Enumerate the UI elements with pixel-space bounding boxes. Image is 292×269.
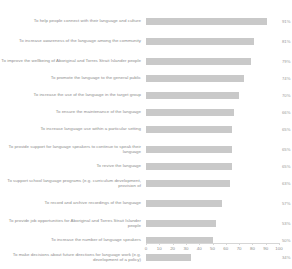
x-axis-tick-label: 80 <box>250 246 255 251</box>
bar-track <box>146 193 279 213</box>
bar-area: 65% <box>146 119 292 139</box>
bar-category-label: To improve the wellbeing of Aboriginal a… <box>0 58 146 63</box>
x-axis-tick-label: 10 <box>157 246 162 251</box>
chart-bar-row: To provide job opportunities for Aborigi… <box>0 213 292 233</box>
chart-bar-row: To help people connect with their langua… <box>0 11 292 31</box>
bar-area: 81% <box>146 31 292 51</box>
x-axis-tick <box>279 243 280 245</box>
x-axis-tick <box>186 243 187 245</box>
bar-category-label: To promote the language to the general p… <box>0 75 146 80</box>
x-axis-tick-label: 60 <box>223 246 228 251</box>
bar-category-label: To increase the use of the language in t… <box>0 92 146 97</box>
chart-bar-row: To record and archive recordings of the … <box>0 193 292 213</box>
chart-bar-row: To increase the use of the language in t… <box>0 85 292 105</box>
bar-category-label: To record and archive recordings of the … <box>0 200 146 205</box>
bar-track <box>146 119 279 139</box>
x-axis-tick <box>159 243 160 245</box>
bar-area: 70% <box>146 85 292 105</box>
chart-bar-row: To ensure the maintenance of the languag… <box>0 105 292 119</box>
bar-value-label: 65% <box>282 147 290 152</box>
bar-category-label: To support school language programs (e.g… <box>0 178 146 189</box>
bar-category-label: To provide support for language speakers… <box>0 144 146 155</box>
bar-area: 74% <box>146 71 292 85</box>
x-axis-tick <box>239 243 240 245</box>
bar-track <box>146 51 279 71</box>
bar <box>146 18 267 25</box>
bar <box>146 220 216 227</box>
x-axis-tick-label: 0 <box>145 246 147 251</box>
x-axis: 0102030405060708090100 <box>146 243 292 269</box>
bar-area: 63% <box>146 173 292 193</box>
bar-track <box>146 139 279 159</box>
bar <box>146 75 244 82</box>
bar-category-label: To provide job opportunities for Aborigi… <box>0 218 146 229</box>
bar-value-label: 66% <box>282 110 290 115</box>
bar-value-label: 70% <box>282 93 290 98</box>
bar <box>146 38 254 45</box>
bar <box>146 146 232 153</box>
chart-bar-row: To support school language programs (e.g… <box>0 173 292 193</box>
x-axis-tick-label: 100 <box>275 246 282 251</box>
x-axis-tick <box>213 243 214 245</box>
bar-category-label: To make decisions about future direction… <box>0 252 146 263</box>
bar-track <box>146 11 279 31</box>
x-axis-tick-label: 90 <box>263 246 268 251</box>
bar-track <box>146 213 279 233</box>
bar-track <box>146 159 279 173</box>
bar-track <box>146 31 279 51</box>
bar <box>146 200 222 207</box>
bar-area: 65% <box>146 159 292 173</box>
bar-area: 65% <box>146 139 292 159</box>
bar-track <box>146 71 279 85</box>
bar-category-label: To increase awareness of the language am… <box>0 38 146 43</box>
bar-area: 57% <box>146 193 292 213</box>
x-axis-tick <box>226 243 227 245</box>
chart-bar-row: To improve the wellbeing of Aboriginal a… <box>0 51 292 71</box>
horizontal-bar-chart: To help people connect with their langua… <box>0 0 292 269</box>
bar-category-label: To help people connect with their langua… <box>0 18 146 23</box>
chart-bar-row: To increase language use within a partic… <box>0 119 292 139</box>
x-axis-tick <box>199 243 200 245</box>
bar-area: 91% <box>146 11 292 31</box>
bar-category-label: To increase language use within a partic… <box>0 126 146 131</box>
bar <box>146 58 251 65</box>
bar-value-label: 74% <box>282 76 290 81</box>
x-axis-tick-label: 50 <box>210 246 215 251</box>
bar <box>146 126 232 133</box>
bar <box>146 92 239 99</box>
x-axis-tick <box>173 243 174 245</box>
bar-area: 79% <box>146 51 292 71</box>
chart-rows: To help people connect with their langua… <box>0 11 292 267</box>
bar-value-label: 57% <box>282 201 290 206</box>
chart-bar-row: To promote the language to the general p… <box>0 71 292 85</box>
bar-value-label: 65% <box>282 164 290 169</box>
bar-area: 66% <box>146 105 292 119</box>
bar-value-label: 50% <box>282 238 290 243</box>
x-axis-tick-label: 40 <box>197 246 202 251</box>
bar <box>146 163 232 170</box>
bar-value-label: 53% <box>282 221 290 226</box>
bar <box>146 109 234 116</box>
bar-value-label: 81% <box>282 39 290 44</box>
x-axis-tick <box>146 243 147 245</box>
chart-bar-row: To increase awareness of the language am… <box>0 31 292 51</box>
bar-track <box>146 85 279 105</box>
x-axis-tick <box>252 243 253 245</box>
chart-bar-row: To revive the language65% <box>0 159 292 173</box>
bar-track <box>146 105 279 119</box>
bar <box>146 180 230 187</box>
bar-category-label: To ensure the maintenance of the languag… <box>0 109 146 114</box>
bar-track <box>146 173 279 193</box>
x-axis-tick-label: 70 <box>237 246 242 251</box>
bar-value-label: 79% <box>282 59 290 64</box>
x-axis-tick-label: 30 <box>183 246 188 251</box>
bar-category-label: To increase the number of language speak… <box>0 237 146 242</box>
bar-value-label: 63% <box>282 181 290 186</box>
bar-area: 53% <box>146 213 292 233</box>
bar-value-label: 91% <box>282 19 290 24</box>
chart-bar-row: To provide support for language speakers… <box>0 139 292 159</box>
bar-value-label: 65% <box>282 127 290 132</box>
x-axis-tick-label: 20 <box>170 246 175 251</box>
x-axis-tick <box>266 243 267 245</box>
bar-category-label: To revive the language <box>0 163 146 168</box>
